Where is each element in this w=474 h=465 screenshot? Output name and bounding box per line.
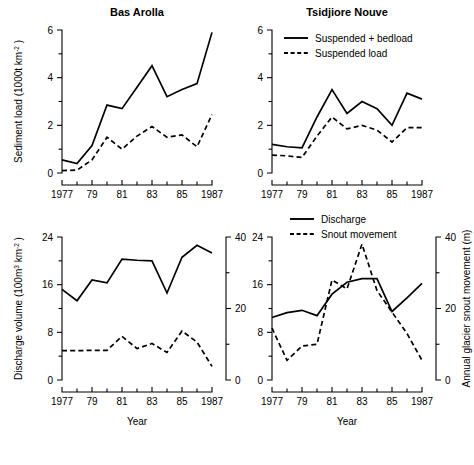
y-tick-label: 16 — [252, 279, 264, 290]
legend-label: Discharge — [321, 214, 366, 225]
y-axis-left: 081624 — [42, 232, 62, 386]
y-tick-label: 6 — [47, 25, 53, 36]
y2-tick-label: 20 — [445, 303, 457, 314]
x-axis-label: Year — [337, 416, 358, 427]
x-tick-label: 83 — [146, 396, 158, 407]
x-tick-label: 79 — [86, 396, 98, 407]
x-tick-label: 83 — [356, 189, 368, 200]
y2-axis-label: Annual glacier snout movement (m) — [461, 230, 472, 388]
y-tick-label: 6 — [257, 25, 263, 36]
series-line-discharge — [272, 279, 422, 318]
series-line-snout-movement — [62, 331, 212, 366]
y-tick-label: 2 — [257, 120, 263, 131]
y-tick-label: 8 — [47, 327, 53, 338]
x-tick-label: 79 — [296, 189, 308, 200]
x-tick-label: 83 — [356, 396, 368, 407]
x-tick-label: 1977 — [51, 396, 74, 407]
chart-panel-bas-arolla-sediment: Bas Arolla02461977798183851987Sediment l… — [0, 0, 237, 210]
chart-panel-bas-arolla-discharge: 081624020401977798183851987YearDischarge… — [0, 210, 237, 465]
y-tick-label: 0 — [257, 375, 263, 386]
panel-title: Tsidjiore Nouve — [306, 6, 388, 18]
y-tick-label: 4 — [47, 72, 53, 83]
chart-panel-tsidjiore-nouve-sediment: Tsidjiore Nouve02461977798183851987Suspe… — [237, 0, 474, 210]
x-axis: 1977798183851987 — [51, 387, 224, 407]
x-tick-label: 1987 — [201, 189, 224, 200]
x-tick-label: 81 — [116, 189, 128, 200]
x-tick-label: 1977 — [261, 396, 284, 407]
y-tick-label: 24 — [42, 232, 54, 243]
x-tick-label: 1987 — [411, 189, 434, 200]
x-tick-label: 81 — [326, 189, 338, 200]
y-axis-left: 081624 — [252, 232, 272, 386]
x-tick-label: 85 — [386, 189, 398, 200]
legend: Suspended + bedloadSuspended load — [284, 33, 413, 59]
series-line-suspended-load — [272, 117, 422, 158]
y-axis-label: Sediment load (1000t km-2 ) — [13, 40, 24, 163]
x-tick-label: 85 — [176, 396, 188, 407]
x-axis-label: Year — [127, 416, 148, 427]
x-tick-label: 85 — [176, 189, 188, 200]
y-tick-label: 0 — [47, 375, 53, 386]
x-tick-label: 85 — [386, 396, 398, 407]
panel-title: Bas Arolla — [110, 6, 165, 18]
legend-label: Snout movement — [321, 229, 397, 240]
x-tick-label: 81 — [326, 396, 338, 407]
x-tick-label: 79 — [86, 189, 98, 200]
y-tick-label: 0 — [47, 168, 53, 179]
series-line-discharge — [62, 245, 212, 300]
x-tick-label: 1987 — [201, 396, 224, 407]
y-axis-left: 0246 — [47, 25, 62, 179]
y-axis-label: Discharge volume (100m3 km-2 ) — [13, 237, 24, 380]
x-tick-label: 1987 — [411, 396, 434, 407]
x-axis: 1977798183851987 — [261, 387, 434, 407]
x-tick-label: 83 — [146, 189, 158, 200]
series-line-snout-movement — [272, 244, 422, 360]
y2-tick-label: 40 — [445, 232, 457, 243]
chart-panel-tsidjiore-nouve-discharge: 08162402040Annual glacier snout movement… — [237, 210, 474, 465]
series-line-suspended-bedload — [272, 90, 422, 148]
x-tick-label: 79 — [296, 396, 308, 407]
y-tick-label: 4 — [257, 72, 263, 83]
x-tick-label: 1977 — [261, 189, 284, 200]
series-line-suspended-load — [62, 115, 212, 171]
y-axis-right: 02040 — [436, 232, 457, 386]
y2-tick-label: 0 — [445, 375, 451, 386]
x-axis: 1977798183851987 — [51, 180, 224, 200]
y-tick-label: 8 — [257, 327, 263, 338]
x-tick-label: 1977 — [51, 189, 74, 200]
y-tick-label: 0 — [257, 168, 263, 179]
x-axis: 1977798183851987 — [261, 180, 434, 200]
y-tick-label: 2 — [47, 120, 53, 131]
legend: DischargeSnout movement — [290, 214, 397, 240]
x-tick-label: 81 — [116, 396, 128, 407]
series-line-suspended-bedload — [62, 32, 212, 163]
legend-label: Suspended load — [315, 48, 387, 59]
y-tick-label: 24 — [252, 232, 264, 243]
legend-label: Suspended + bedload — [315, 33, 413, 44]
y-axis-left: 0246 — [257, 25, 272, 179]
y-tick-label: 16 — [42, 279, 54, 290]
figure-sediment-discharge: Bas Arolla02461977798183851987Sediment l… — [0, 0, 474, 465]
